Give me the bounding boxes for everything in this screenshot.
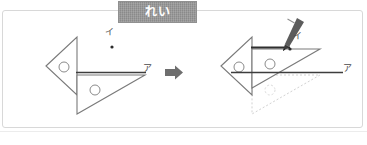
before-panel bbox=[46, 37, 146, 114]
example-illustration: れい bbox=[0, 0, 367, 145]
fixed-set-square bbox=[46, 37, 77, 95]
point-i bbox=[110, 45, 113, 48]
after-panel bbox=[221, 18, 343, 114]
diagram-svg bbox=[2, 10, 363, 128]
after-label-a: ア bbox=[343, 64, 352, 73]
ghost-set-square-hole bbox=[265, 85, 275, 95]
fixed-set-square bbox=[221, 37, 252, 95]
after-label-i: イ bbox=[293, 32, 302, 41]
before-label-a: ア bbox=[143, 64, 152, 73]
diagram-stage: イ ア イ ア bbox=[2, 10, 363, 128]
before-label-i: イ bbox=[105, 28, 114, 37]
moving-set-square bbox=[77, 75, 145, 114]
moving-set-square bbox=[252, 49, 320, 88]
right-arrow-icon bbox=[165, 66, 183, 80]
page-edge-divider bbox=[0, 131, 367, 132]
point-i bbox=[288, 47, 291, 50]
